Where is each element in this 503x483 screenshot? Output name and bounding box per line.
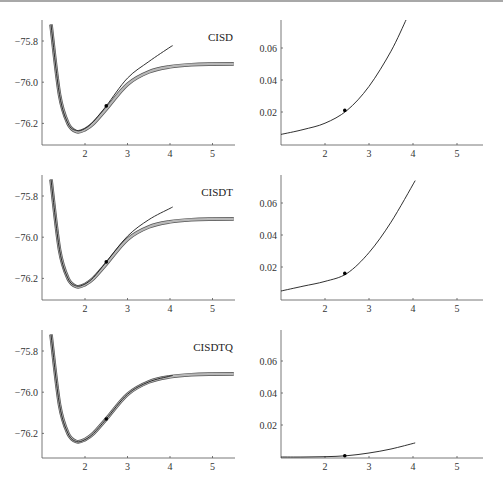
x-tick-label: 2 — [323, 303, 328, 314]
y-tick-label: −75.8 — [15, 346, 38, 357]
y-tick-label: −76.0 — [15, 387, 38, 398]
exact-curve — [51, 25, 234, 132]
x-tick-label: 3 — [125, 148, 130, 159]
reference-point-marker — [104, 417, 108, 421]
y-tick-label: −75.8 — [15, 191, 38, 202]
reference-point-marker — [343, 109, 347, 113]
x-tick-label: 5 — [210, 461, 215, 472]
panel-label: CISDT — [201, 186, 233, 198]
x-tick-label: 5 — [210, 303, 215, 314]
y-tick-label: 0.02 — [260, 262, 278, 273]
y-tick-label: 0.02 — [260, 420, 278, 431]
x-tick-label: 3 — [367, 461, 372, 472]
y-tick-label: −76.2 — [15, 428, 38, 439]
exact-curve-outline — [51, 25, 234, 132]
x-tick-label: 3 — [125, 461, 130, 472]
y-tick-label: 0.02 — [260, 107, 278, 118]
x-tick-label: 5 — [455, 461, 460, 472]
y-tick-label: 0.06 — [260, 198, 278, 209]
x-tick-label: 2 — [83, 303, 88, 314]
y-tick-label: −76.2 — [15, 273, 38, 284]
x-tick-label: 5 — [455, 148, 460, 159]
y-tick-label: −76.2 — [15, 118, 38, 129]
panel-row2-left: 2345−75.8−76.0−76.2CISDT — [15, 175, 235, 314]
x-tick-label: 4 — [411, 303, 416, 314]
panel-row2-right: 23450.020.040.06 — [260, 175, 484, 314]
y-tick-label: 0.06 — [260, 43, 278, 54]
y-tick-label: 0.04 — [260, 388, 278, 399]
x-tick-label: 5 — [210, 148, 215, 159]
x-tick-label: 2 — [323, 461, 328, 472]
x-tick-label: 3 — [125, 303, 130, 314]
x-tick-label: 4 — [168, 148, 173, 159]
y-tick-label: 0.04 — [260, 75, 278, 86]
x-tick-label: 4 — [411, 148, 416, 159]
y-tick-label: 0.04 — [260, 230, 278, 241]
figure: 2345−75.8−76.0−76.2CISD23450.020.040.062… — [0, 0, 503, 483]
panel-label: CISDTQ — [193, 341, 233, 353]
reference-point-marker — [343, 272, 347, 276]
error-curve — [281, 443, 415, 457]
x-tick-label: 4 — [411, 461, 416, 472]
error-curve — [281, 181, 415, 291]
approx-curve — [51, 25, 172, 131]
x-tick-label: 3 — [367, 303, 372, 314]
x-tick-label: 3 — [367, 148, 372, 159]
reference-point-marker — [343, 454, 347, 458]
approx-curve — [51, 335, 172, 442]
x-tick-label: 4 — [168, 461, 173, 472]
x-tick-label: 2 — [83, 148, 88, 159]
y-tick-label: −76.0 — [15, 232, 38, 243]
panel-row1-left: 2345−75.8−76.0−76.2CISD — [15, 20, 235, 159]
panel-row1-right: 23450.020.040.06 — [260, 19, 484, 159]
panel-label: CISD — [208, 31, 233, 43]
x-tick-label: 2 — [323, 148, 328, 159]
y-tick-label: −75.8 — [15, 36, 38, 47]
approx-curve — [51, 180, 172, 287]
y-tick-label: −76.0 — [15, 77, 38, 88]
reference-point-marker — [104, 260, 108, 264]
x-tick-label: 5 — [455, 303, 460, 314]
panel-row3-left: 2345−75.8−76.0−76.2CISDTQ — [15, 330, 235, 472]
error-curve — [281, 19, 406, 134]
reference-point-marker — [104, 104, 108, 108]
panel-row3-right: 23450.020.040.06 — [260, 330, 484, 472]
x-tick-label: 4 — [168, 303, 173, 314]
x-tick-label: 2 — [83, 461, 88, 472]
y-tick-label: 0.06 — [260, 356, 278, 367]
